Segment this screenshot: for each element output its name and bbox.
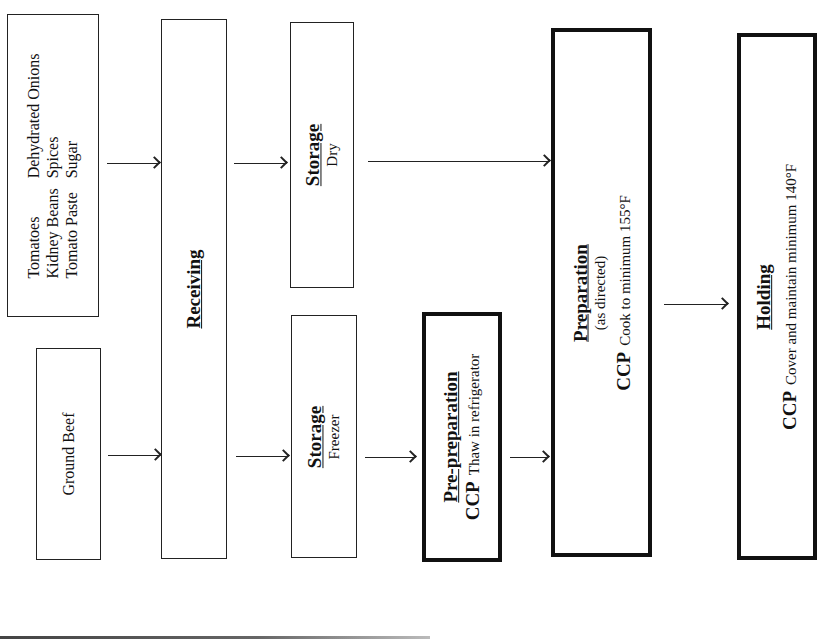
pre-preparation-ccp-line: CCPThaw in refrigerator	[462, 354, 484, 521]
preparation-ccp-line: CCPCook to minimum 155°F	[612, 195, 634, 391]
arrow-preparation-to-holding	[664, 304, 726, 305]
ground-beef-label: Ground Beef	[59, 412, 77, 495]
preparation-title: Preparation	[569, 195, 591, 391]
ingredient-kidney-beans: Kidney Beans	[43, 188, 62, 278]
holding-box: Holding CCPCover and maintain minimum 14…	[737, 33, 817, 560]
arrow-storage-dry-to-preparation	[368, 161, 548, 162]
receiving-box: Receiving	[161, 19, 227, 559]
preparation-subtitle: (as directed)	[591, 195, 608, 391]
arrow-ingredients-to-receiving	[107, 163, 158, 164]
arrow-pre-preparation-to-preparation	[510, 457, 547, 458]
arrow-storage-freezer-to-pre-preparation	[365, 457, 414, 458]
storage-dry-content: Storage Dry	[302, 124, 341, 186]
storage-freezer-subtitle: Freezer	[326, 405, 343, 467]
storage-dry-subtitle: Dry	[324, 124, 341, 186]
ingredients-content: Tomatoes Dehydrated Onions Kidney Beans …	[24, 53, 82, 278]
storage-dry-box: Storage Dry	[290, 22, 354, 288]
ingredients-box: Tomatoes Dehydrated Onions Kidney Beans …	[7, 14, 99, 317]
holding-ccp-text: Cover and maintain minimum 140°F	[783, 163, 799, 384]
ingredient-tomatoes: Tomatoes	[24, 188, 43, 278]
storage-dry-title: Storage	[302, 124, 324, 186]
pre-preparation-box: Pre-preparation CCPThaw in refrigerator	[422, 312, 502, 562]
arrow-receiving-to-storage-freezer	[236, 456, 287, 457]
ingredient-sugar: Sugar	[63, 53, 82, 178]
ingredient-spices: Spices	[43, 53, 62, 178]
arrow-receiving-to-storage-dry	[234, 163, 285, 164]
pre-preparation-content: Pre-preparation CCPThaw in refrigerator	[440, 354, 484, 521]
preparation-content: Preparation (as directed) CCPCook to min…	[569, 195, 634, 391]
ingredient-dehydrated-onions: Dehydrated Onions	[24, 53, 43, 178]
storage-freezer-content: Storage Freezer	[304, 405, 343, 467]
holding-title: Holding	[753, 163, 775, 429]
storage-freezer-box: Storage Freezer	[291, 315, 357, 558]
storage-freezer-title: Storage	[304, 405, 326, 467]
ccp-badge: CCP	[462, 481, 483, 520]
holding-ccp-line: CCPCover and maintain minimum 140°F	[779, 163, 801, 429]
preparation-ccp-text: Cook to minimum 155°F	[616, 195, 632, 346]
receiving-title: Receiving	[183, 249, 205, 328]
holding-content: Holding CCPCover and maintain minimum 14…	[753, 163, 801, 429]
preparation-box: Preparation (as directed) CCPCook to min…	[551, 28, 652, 557]
ccp-badge: CCP	[612, 351, 633, 390]
ccp-badge: CCP	[779, 390, 800, 429]
ground-beef-box: Ground Beef	[36, 348, 101, 560]
ingredient-tomato-paste: Tomato Paste	[63, 188, 82, 278]
pre-preparation-title: Pre-preparation	[440, 354, 462, 521]
arrow-ground-beef-to-receiving	[108, 455, 159, 456]
pre-preparation-ccp-text: Thaw in refrigerator	[466, 354, 482, 476]
